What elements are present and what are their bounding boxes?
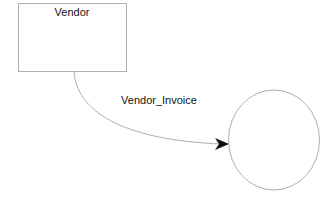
vendor-invoice-relationship[interactable]: Vendor_Invoice	[74, 71, 229, 150]
vendor-label: Vendor	[55, 6, 90, 18]
diagram-canvas: Vendor Vendor_Invoice	[0, 0, 333, 200]
vendor-entity[interactable]: Vendor	[19, 4, 127, 72]
relationship-label: Vendor_Invoice	[121, 94, 197, 106]
target-node[interactable]	[229, 90, 320, 190]
